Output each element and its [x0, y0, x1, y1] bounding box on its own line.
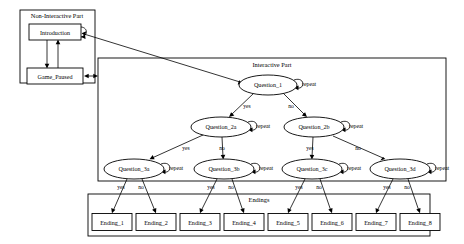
edge-introduction-to-game-paused — [45, 40, 50, 69]
node-question-2a[interactable]: Question_2a — [191, 117, 251, 137]
cluster-label-non-interactive: Non-Interactive Part — [31, 12, 84, 19]
node-ending-1[interactable]: Ending_1 — [92, 214, 132, 231]
edge-label-q3b-no: no — [228, 184, 234, 190]
edge-label-q3d-yes: yes — [383, 184, 390, 190]
edge-label-q3c-no: no — [316, 184, 322, 190]
edge-label-q1-yes: yes — [243, 103, 250, 109]
node-question-3b[interactable]: Question_3b — [194, 159, 254, 179]
node-label-ending-6: Ending_6 — [320, 220, 344, 226]
node-ending-6[interactable]: Ending_6 — [312, 214, 352, 231]
node-introduction[interactable]: Introduction — [29, 24, 81, 40]
node-game-paused[interactable]: Game_Paused — [27, 68, 83, 84]
edge-label-q2b-yes: yes — [306, 145, 313, 151]
edge-question-1-to-question-2b — [283, 93, 307, 117]
node-question-2b[interactable]: Question_2b — [284, 117, 344, 137]
node-ending-7[interactable]: Ending_7 — [356, 214, 396, 231]
edge-label-q3a-no: no — [138, 184, 144, 190]
loop-label-question-2a: repeat — [256, 123, 271, 129]
node-label-ending-7: Ending_7 — [364, 220, 388, 226]
edge-question-3a-to-ending-2 — [142, 179, 156, 213]
edge-label-q2a-no: no — [219, 145, 225, 151]
node-question-3a[interactable]: Question_3a — [104, 159, 164, 179]
cluster-label-endings: Endings — [249, 196, 270, 203]
edge-game-paused-to-interactive-part — [84, 74, 98, 79]
node-label-question-3d: Question_3d — [384, 166, 415, 172]
edge-label-q3a-yes: yes — [117, 184, 124, 190]
node-ending-3[interactable]: Ending_3 — [180, 214, 220, 231]
loop-label-question-3a: repeat — [169, 165, 184, 171]
node-label-ending-5: Ending_5 — [276, 220, 300, 226]
node-label-introduction: Introduction — [40, 30, 70, 36]
loop-label-question-3d: repeat — [435, 165, 450, 171]
edge-question-3d-to-ending-8 — [408, 179, 421, 213]
edge-label-q3b-yes: yes — [207, 184, 214, 190]
edge-label-q3d-no: no — [404, 184, 410, 190]
node-question-3d[interactable]: Question_3d — [370, 159, 430, 179]
node-label-ending-2: Ending_2 — [144, 220, 168, 226]
loop-label-question-3c: repeat — [347, 165, 362, 171]
node-ending-8[interactable]: Ending_8 — [400, 214, 440, 231]
node-label-game-paused: Game_Paused — [38, 74, 73, 80]
node-ending-5[interactable]: Ending_5 — [268, 214, 308, 231]
edge-game-paused-to-introduction — [56, 40, 61, 69]
node-label-question-2b: Question_2b — [298, 124, 329, 130]
node-label-question-2a: Question_2a — [206, 124, 237, 130]
node-label-ending-3: Ending_3 — [188, 220, 212, 226]
node-label-question-3a: Question_3a — [119, 166, 150, 172]
node-question-1[interactable]: Question_1 — [239, 75, 297, 95]
edge-question-3c-to-ending-6 — [320, 179, 333, 213]
edge-label-q2b-no: no — [355, 145, 361, 151]
node-label-question-1: Question_1 — [254, 82, 282, 88]
node-label-ending-4: Ending_4 — [232, 220, 256, 226]
node-label-question-3c: Question_3c — [297, 166, 328, 172]
loop-label-question-2b: repeat — [349, 123, 364, 129]
edge-question-3b-to-ending-4 — [232, 179, 245, 213]
cluster-label-interactive: Interactive Part — [252, 61, 291, 68]
node-label-ending-1: Ending_1 — [100, 220, 124, 226]
edge-label-q1-no: no — [288, 103, 294, 109]
loop-label-question-1: repeat — [302, 81, 317, 87]
edge-question-2a-to-question-3a — [150, 135, 204, 159]
node-label-ending-8: Ending_8 — [408, 220, 432, 226]
edge-label-q2a-yes: yes — [182, 145, 189, 151]
node-ending-4[interactable]: Ending_4 — [224, 214, 264, 231]
loop-label-question-3b: repeat — [259, 165, 274, 171]
edge-label-q3c-yes: yes — [295, 184, 302, 190]
node-label-question-3b: Question_3b — [208, 166, 239, 172]
node-question-3c[interactable]: Question_3c — [282, 159, 342, 179]
diagram-canvas: Non-Interactive Part Interactive Part En… — [0, 0, 464, 244]
flow-diagram: Non-Interactive Part Interactive Part En… — [0, 0, 464, 244]
node-ending-2[interactable]: Ending_2 — [136, 214, 176, 231]
